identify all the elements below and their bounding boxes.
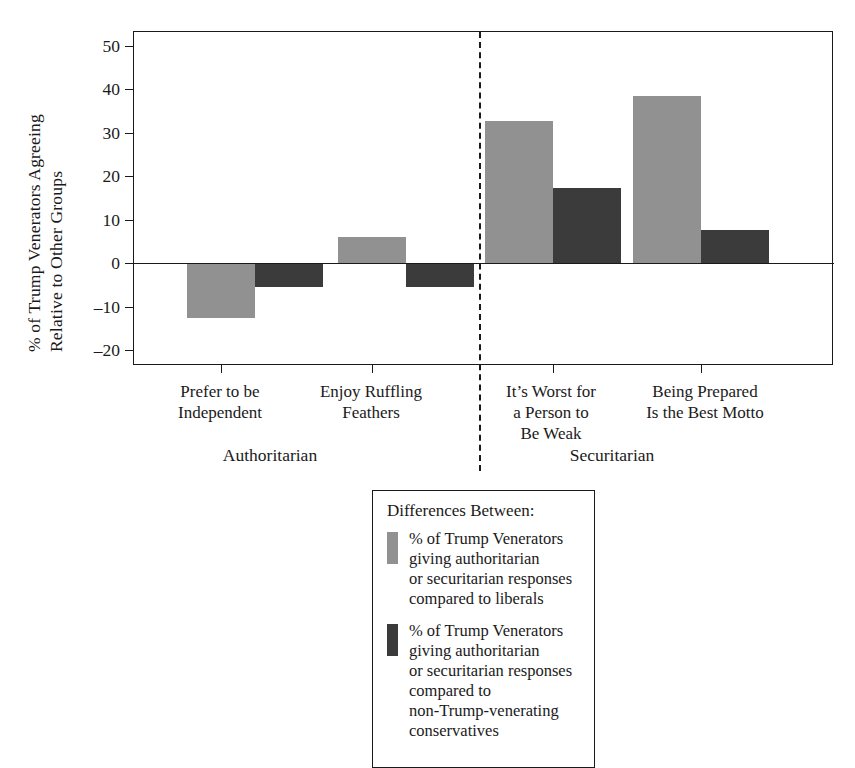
y-tick-label-20: 20 <box>103 166 121 187</box>
bar-dark-being-prepared-is-the-best-motto <box>701 230 769 263</box>
legend-row-liberals: % of Trump Venerators giving authoritari… <box>387 529 594 609</box>
y-tick-neg20: –20 <box>125 350 134 351</box>
category-group-divider <box>479 32 481 471</box>
y-tick-10: 10 <box>125 220 134 221</box>
y-tick-30: 30 <box>125 133 134 134</box>
bar-light-its-worst-for-a-person-to-be-weak <box>485 121 553 263</box>
legend-row-conservatives: % of Trump Venerators giving authoritari… <box>387 621 594 741</box>
legend-box: Differences Between: % of Trump Venerato… <box>372 490 595 768</box>
x-group-label-authoritarian: Authoritarian <box>190 445 350 466</box>
y-tick-40: 40 <box>125 89 134 90</box>
y-axis-title-line-2: Relative to Other Groups <box>46 171 67 352</box>
legend-swatch-light-icon <box>387 532 398 564</box>
bar-light-enjoy-ruffling-feathers <box>338 237 406 263</box>
y-tick-label-50: 50 <box>103 36 121 57</box>
legend-content: Differences Between: % of Trump Venerato… <box>373 491 594 753</box>
y-tick-label-neg20: –20 <box>94 340 120 361</box>
y-tick-50: 50 <box>125 46 134 47</box>
legend-label-conservatives: % of Trump Venerators giving authoritari… <box>409 621 594 741</box>
plot-area: 50 40 30 20 10 0 –10 –20 <box>133 31 833 365</box>
bar-dark-enjoy-ruffling-feathers <box>406 263 474 287</box>
y-tick-label-neg10: –10 <box>94 297 120 318</box>
bar-dark-its-worst-for-a-person-to-be-weak <box>553 188 621 263</box>
x-category-label-1: Enjoy Ruffling Feathers <box>301 381 441 423</box>
y-tick-label-0: 0 <box>111 253 120 274</box>
x-tick-2 <box>553 364 554 373</box>
y-tick-0: 0 <box>125 263 134 264</box>
x-group-label-securitarian: Securitarian <box>532 445 692 466</box>
legend-title: Differences Between: <box>387 501 594 521</box>
legend-label-liberals: % of Trump Venerators giving authoritari… <box>409 529 594 609</box>
bar-dark-prefer-to-be-independent <box>255 263 323 287</box>
y-tick-20: 20 <box>125 176 134 177</box>
y-axis-title-line-1: % of Trump Venerators Agreeing <box>24 114 45 352</box>
y-tick-label-30: 30 <box>103 123 121 144</box>
y-tick-neg10: –10 <box>125 307 134 308</box>
bar-light-being-prepared-is-the-best-motto <box>633 96 701 263</box>
x-category-label-0: Prefer to be Independent <box>150 381 290 423</box>
y-tick-label-40: 40 <box>103 79 121 100</box>
legend-swatch-dark-icon <box>387 624 398 656</box>
zero-baseline <box>134 263 834 264</box>
bar-light-prefer-to-be-independent <box>187 263 255 318</box>
x-tick-3 <box>701 364 702 373</box>
x-tick-1 <box>372 364 373 373</box>
x-category-label-3: Being Prepared Is the Best Motto <box>625 381 785 423</box>
x-category-label-2: It’s Worst for a Person to Be Weak <box>484 381 618 444</box>
x-tick-0 <box>221 364 222 373</box>
y-axis-title: % of Trump Venerators Agreeing Relative … <box>0 0 60 380</box>
y-tick-label-10: 10 <box>103 210 121 231</box>
